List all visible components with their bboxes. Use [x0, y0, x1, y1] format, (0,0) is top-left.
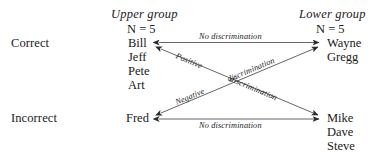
person-lower-incorrect-1: Mike	[327, 112, 353, 125]
person-lower-correct-2: Gregg	[327, 51, 358, 64]
column-heading-lower-group: Lower group	[299, 8, 366, 21]
person-lower-incorrect-2: Dave	[327, 126, 353, 139]
person-upper-correct-1: Bill	[128, 37, 147, 50]
column-n-upper-group: N = 5	[127, 23, 156, 36]
column-heading-upper-group: Upper group	[111, 8, 178, 21]
edge-label-top-no-discrimination: No discrimination	[199, 33, 262, 41]
row-label-correct: Correct	[11, 37, 49, 50]
person-lower-correct-1: Wayne	[327, 37, 361, 50]
person-upper-correct-2: Jeff	[128, 51, 147, 64]
edge-label-bottom-no-discrimination: No discrimination	[199, 122, 262, 130]
person-upper-correct-3: Pete	[128, 65, 150, 78]
column-n-lower-group: N = 5	[316, 23, 345, 36]
diagram-canvas: Correct Incorrect Upper group N = 5 Bill…	[0, 0, 392, 161]
person-upper-incorrect-1: Fred	[126, 112, 149, 125]
person-lower-incorrect-3: Steve	[327, 140, 355, 153]
person-upper-correct-4: Art	[128, 79, 145, 92]
row-label-incorrect: Incorrect	[11, 112, 57, 125]
